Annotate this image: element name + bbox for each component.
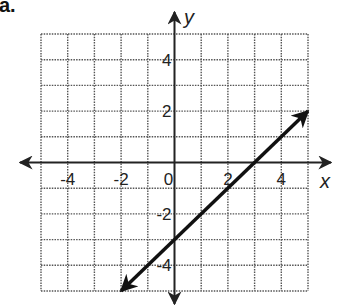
x-tick-label: -2 [114,170,129,189]
x-axis-label: x [319,170,331,192]
y-tick-label: -2 [156,205,171,224]
y-tick-label: 2 [162,102,171,121]
y-tick-label: -4 [156,256,171,275]
x-tick-label: -4 [60,170,75,189]
plotted-line [121,111,308,291]
x-tick-label: 4 [277,170,286,189]
y-tick-label: 4 [162,51,171,70]
x-tick-label: 0 [164,170,173,189]
series-line [121,111,308,291]
coordinate-plane: -4-202442-2-4 x y [0,0,341,305]
axes [20,12,331,304]
y-axis-label: y [182,6,195,28]
